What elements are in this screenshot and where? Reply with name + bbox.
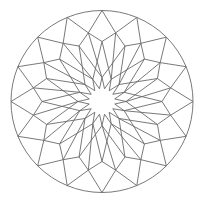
petal-edge [162,102,171,116]
spoke-line [79,46,85,84]
petal-edge [141,43,145,59]
petal-edge [44,63,47,79]
petal-edge [33,115,46,124]
spoke-line [119,118,125,156]
petal-edge [63,160,67,186]
petal-edge [137,160,141,186]
spoke-line [47,118,85,124]
spoke-line [60,59,80,92]
petal-edge [144,59,160,63]
petal-edge [11,88,33,102]
petal-edge [67,17,88,32]
spoke-line [124,102,162,111]
petal-edge [38,160,63,166]
petal-edge [11,102,33,116]
petal-edge [157,115,170,124]
petal-edge [141,37,166,43]
spoke-line [119,79,157,85]
petal-edge [79,157,88,170]
petal-edge [157,124,160,140]
petal-edge [171,115,186,136]
spoke-line [124,59,144,92]
petal-edge [88,170,102,192]
spoke-line [60,124,93,144]
petal-edge [116,170,137,185]
rhombus-petals [11,11,193,193]
kite-line [111,33,115,79]
petal-edge [160,63,186,67]
petal-edge [63,157,79,160]
spoke-line [42,92,80,101]
petal-edge [18,67,33,88]
petal-edge [137,17,141,43]
petal-edge [63,17,67,43]
petal-edge [33,88,42,102]
petal-edge [160,140,166,165]
petal-edge [60,144,64,160]
kite-line [63,43,93,79]
petal-edge [102,170,116,192]
spoke-line [93,124,102,162]
petal-edge [38,37,63,43]
petal-edge [116,17,137,32]
kite-line [33,88,79,92]
petal-edge [160,37,166,62]
spoke-line [124,111,144,144]
rosette-figure [0,0,203,204]
petal-edge [18,63,44,67]
petal-edge [144,140,160,144]
kite-line [44,111,80,141]
spoke-line [60,111,80,144]
petal-edge [171,88,193,102]
petal-edge [160,136,186,140]
petal-edge [102,33,116,42]
rosette-svg [0,0,203,204]
spoke-line [102,42,111,80]
petal-edge [38,140,44,165]
petal-edge [38,37,44,62]
petal-edge [60,43,64,59]
petal-edge [125,43,141,46]
outer-circle [11,11,193,193]
kite-line [124,63,160,93]
petal-edge [79,33,88,46]
petal-edge [33,79,46,88]
kite-line [111,124,141,160]
petal-edge [171,67,186,88]
center-star [78,78,126,126]
petal-edge [102,11,116,33]
kite-line [124,111,170,115]
petal-edge [141,144,145,160]
kite-line [88,124,92,170]
petal-edge [116,33,125,46]
petal-edge [18,115,33,136]
spoke-line [111,124,144,144]
petal-edge [157,79,170,88]
petal-edge [116,157,125,170]
petal-edge [171,102,193,116]
spoke-line [60,59,93,79]
petal-edge [18,136,44,140]
petal-edge [88,11,102,33]
petal-edge [88,162,102,171]
petal-edge [67,170,88,185]
star-spokes [33,33,170,170]
petal-edge [141,160,166,166]
spoke-line [111,59,144,79]
petal-edge [44,59,60,63]
petal-edge [44,140,60,144]
